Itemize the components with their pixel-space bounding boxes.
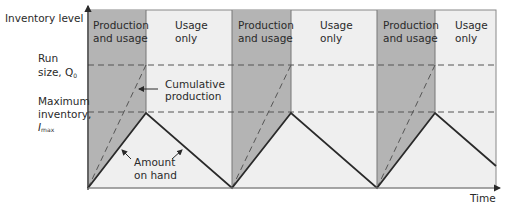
production-label: and usage [238, 32, 293, 44]
y-axis-label: Inventory level [5, 12, 83, 24]
max-inventory-label: inventory, [38, 108, 91, 120]
usage-label: Usage [455, 19, 488, 31]
production-label: Production [383, 19, 439, 31]
x-axis-label: Time [469, 192, 496, 204]
production-label: Production [93, 19, 149, 31]
usage-label: Usage [320, 19, 353, 31]
run-size-label: size, Q0 [38, 66, 77, 79]
eoq-diagram: Inventory level Time Run size, Q0 Maximu… [0, 0, 514, 206]
production-label: Production [238, 19, 294, 31]
usage-label: only [320, 32, 342, 44]
max-inventory-label: Maximum [38, 95, 90, 107]
cumulative-production-annotation: Cumulative [165, 78, 225, 90]
production-label: and usage [383, 32, 438, 44]
amount-on-hand-annotation: Amount [134, 156, 175, 168]
amount-on-hand-annotation: on hand [134, 169, 177, 181]
cumulative-production-annotation: production [165, 90, 221, 102]
usage-label: Usage [175, 19, 208, 31]
production-label: and usage [93, 32, 148, 44]
run-size-label: Run [38, 52, 58, 64]
usage-label: only [175, 32, 197, 44]
usage-label: only [455, 32, 477, 44]
max-inventory-label: Imax [38, 121, 55, 133]
